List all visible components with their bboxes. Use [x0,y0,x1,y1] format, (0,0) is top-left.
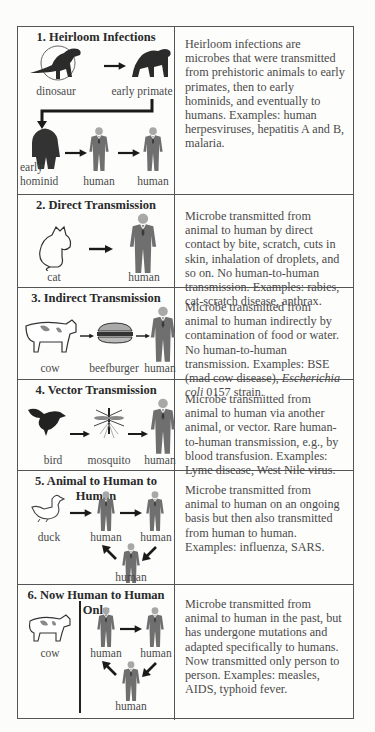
human-icon [150,398,176,454]
label-human: human [88,531,124,543]
label-dinosaur: dinosaur [26,85,86,97]
description-text: Microbe transmitted from animal to human… [175,380,353,470]
label-early-primate: early primate [110,85,174,97]
row-vector-transmission: 4. Vector Transmission bird mosquito hum… [18,380,353,471]
arrow-right-icon [104,62,126,70]
label-duck: duck [32,531,66,543]
cow-icon [26,613,72,643]
label-human: human [136,175,170,187]
description-text: Heirloom infections are microbes that we… [175,27,353,194]
label-bird: bird [38,454,68,466]
human-icon [96,607,116,647]
label-cow: cow [30,647,70,659]
illustration-cell: 2. Direct Transmission cat human [18,195,175,287]
description-text: Microbe transmitted from animal to human… [175,195,353,287]
row-title: 3. Indirect Transmission [18,291,174,306]
arrow-right-icon [80,332,94,340]
duck-icon [30,493,66,523]
row-heirloom-infections: 1. Heirloom Infections dinosaur early pr… [18,27,353,195]
label-cat: cat [36,271,72,283]
row-title: 2. Direct Transmission [18,198,174,213]
human-icon [142,127,164,171]
illustration-cell: 1. Heirloom Infections dinosaur early pr… [18,27,175,194]
label-beefburger: beefburger [86,362,142,374]
human-icon [145,491,165,531]
label-human: human [142,362,178,374]
beefburger-icon [96,322,134,344]
arrow-right-icon [70,509,92,517]
arrow-down-left-icon [142,661,158,677]
arrow-right-icon [118,149,140,157]
row-direct-transmission: 2. Direct Transmission cat human Microbe… [18,195,353,288]
illustration-cell: 6. Now Human to Human Only cow human hum… [18,585,175,720]
transmission-table: 1. Heirloom Infections dinosaur early pr… [17,26,354,719]
illustration-cell: 3. Indirect Transmission cow beefburger … [18,288,175,379]
label-human: human [138,531,174,543]
arrow-right-icon [120,625,142,633]
label-hominid: hominid [20,175,58,187]
label-human: human [86,647,126,659]
description-text: Microbe transmitted from animal to human… [175,288,353,379]
arrow-right-icon [86,245,116,253]
arrow-down-left-icon [142,545,158,561]
arrow-up-left-icon [102,661,118,677]
arrow-right-icon [65,149,87,157]
human-icon [96,491,116,531]
label-human: human [138,647,174,659]
early-primate-icon [128,45,174,81]
row-indirect-transmission: 3. Indirect Transmission cow beefburger … [18,288,353,380]
divider-line [79,601,81,713]
cat-icon [36,221,76,271]
label-human: human [142,454,178,466]
arrow-right-icon [136,332,150,340]
mosquito-icon [92,404,126,438]
bird-icon [26,404,68,436]
illustration-cell: 5. Animal to Human to Human duck human h… [18,471,175,584]
description-text: Microbe transmitted from animal to human… [175,585,353,720]
label-early: early [20,161,43,173]
human-icon [121,661,141,701]
arrow-right-icon [70,430,90,438]
label-human: human [113,700,149,712]
description-text: Microbe transmitted from animal to human… [175,471,353,584]
human-icon [145,607,165,647]
arrow-down-left-icon [36,99,156,129]
label-mosquito: mosquito [84,454,134,466]
cow-icon [22,316,80,354]
label-human: human [124,271,164,283]
human-icon [128,213,158,273]
human-icon [88,127,110,171]
row-animal-to-human-to-human: 5. Animal to Human to Human duck human h… [18,471,353,585]
label-human: human [82,175,116,187]
dinosaur-icon [28,43,86,83]
label-cow: cow [30,362,70,374]
label-human: human [113,571,149,583]
arrow-right-icon [120,509,142,517]
arrow-up-left-icon [102,545,118,561]
row-now-human-to-human-only: 6. Now Human to Human Only cow human hum… [18,585,353,720]
arrow-right-icon [128,430,148,438]
illustration-cell: 4. Vector Transmission bird mosquito hum… [18,380,175,470]
human-icon [150,306,176,362]
row-title: 4. Vector Transmission [18,383,174,398]
